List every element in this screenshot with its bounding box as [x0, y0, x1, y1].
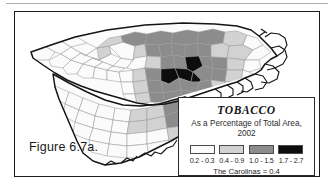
scan-rule-divider [6, 3, 328, 4]
map-legend: TOBACCO As a Percentage of Total Area, 2… [178, 97, 315, 176]
legend-subtitle: As a Percentage of Total Area, 2002 [184, 119, 309, 140]
legend-footnote: The Carolinas = 0.4 [184, 167, 309, 176]
legend-class-0[interactable]: 0.2 - 0.3 [188, 145, 216, 166]
legend-swatch-row: 0.2 - 0.3 0.4 - 0.9 1.0 - 1.5 1.7 - 2.7 [188, 145, 305, 166]
figure-frame: .c{stroke:#9a9a9a;stroke-width:.55;} .w{… [14, 11, 320, 177]
legend-swatch-3 [278, 145, 303, 154]
legend-swatch-0 [190, 145, 215, 154]
legend-class-3[interactable]: 1.7 - 2.7 [277, 145, 305, 166]
legend-subtitle-line-2: 2002 [184, 129, 309, 139]
legend-class-1[interactable]: 0.4 - 0.9 [218, 145, 246, 166]
legend-label-2: 1.0 - 1.5 [247, 156, 275, 165]
figure-page: .c{stroke:#9a9a9a;stroke-width:.55;} .w{… [0, 0, 334, 189]
legend-label-3: 1.7 - 2.7 [277, 156, 305, 165]
legend-subtitle-line-1: As a Percentage of Total Area, [184, 119, 309, 129]
legend-swatch-2 [249, 145, 274, 154]
legend-label-0: 0.2 - 0.3 [188, 156, 216, 165]
legend-label-1: 0.4 - 0.9 [218, 156, 246, 165]
figure-caption: Figure 6.7a. [29, 140, 98, 154]
legend-class-2[interactable]: 1.0 - 1.5 [247, 145, 275, 166]
legend-title: TOBACCO [184, 104, 309, 116]
legend-swatch-1 [219, 145, 244, 154]
